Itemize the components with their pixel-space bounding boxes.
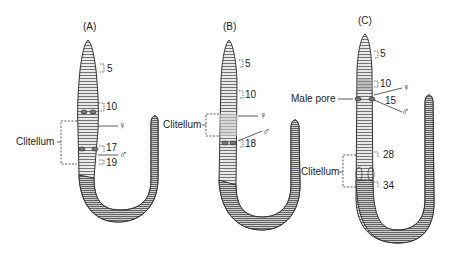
- female-pore-icon-c: ♀: [402, 82, 410, 93]
- worm-b: [202, 40, 300, 230]
- segment-34-c: 34: [383, 181, 394, 191]
- segment-10-b: 10: [245, 90, 256, 100]
- male-pore-label-c: Male pore: [291, 94, 335, 104]
- segment-10-a: 10: [106, 102, 117, 112]
- earthworm-diagram: [0, 0, 452, 256]
- segment-5-c: 5: [380, 49, 386, 59]
- male-pore-icon-c: ♂: [401, 106, 409, 117]
- female-pore-icon-a: ♀: [118, 120, 126, 131]
- segment-5-a: 5: [107, 64, 113, 74]
- panel-label-a: (A): [83, 22, 96, 32]
- female-pore-icon-b: ♀: [259, 110, 267, 121]
- clitellum-label-a: Clitellum: [16, 137, 54, 147]
- male-pore-icon-b: ♂: [262, 126, 270, 137]
- clitellum-label-c: Clitellum: [301, 167, 339, 177]
- segment-18-b: 18: [245, 139, 256, 149]
- clitellum-label-b: Clitellum: [163, 120, 201, 130]
- segment-17-a: 17: [106, 143, 117, 153]
- male-pore-icon-a: ♂: [119, 149, 127, 160]
- segment-19-a: 19: [106, 158, 117, 168]
- segment-10-c: 10: [380, 79, 391, 89]
- worm-c: [338, 34, 434, 243]
- segment-5-b: 5: [245, 59, 251, 69]
- segment-28-c: 28: [383, 150, 394, 160]
- segment-15-c: 15: [385, 96, 396, 106]
- panel-label-b: (B): [223, 22, 236, 32]
- panel-label-c: (C): [358, 16, 372, 26]
